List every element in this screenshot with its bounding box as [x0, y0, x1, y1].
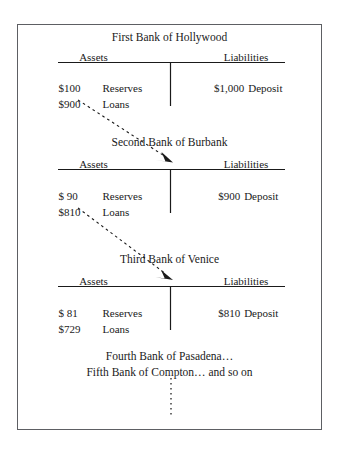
asset-row-loans-second: $810Loans — [42, 193, 129, 232]
assets-header-second: Assets — [17, 158, 170, 170]
liability-label-deposit-first: Deposit — [244, 82, 282, 94]
bank-title-second: Second Bank of Burbank — [17, 136, 322, 149]
liabilities-header-second: Liabilities — [170, 158, 322, 170]
asset-label-loans-second: Loans — [99, 206, 130, 218]
asset-amount-loans-third: $729 — [59, 323, 99, 336]
continuation-line-fifth: Fifth Bank of Compton… and so on — [17, 364, 322, 380]
liability-row-deposit-second: $900Deposit — [170, 177, 310, 216]
liability-amount-deposit-first: $1,000 — [214, 82, 244, 94]
liability-row-deposit-third: $810Deposit — [170, 294, 310, 333]
liabilities-header-first: Liabilities — [170, 51, 322, 63]
asset-label-loans-third: Loans — [99, 323, 130, 335]
liability-label-deposit-third: Deposit — [240, 307, 278, 319]
asset-row-loans-first: $900Loans — [42, 85, 129, 124]
asset-label-loans-first: Loans — [99, 98, 130, 110]
liability-row-deposit-first: $1,000Deposit — [170, 69, 310, 108]
assets-header-third: Assets — [17, 275, 170, 287]
assets-header-first: Assets — [17, 51, 170, 63]
bank-title-third: Third Bank of Venice — [17, 253, 322, 266]
fractional-reserve-banking-figure: First Bank of Hollywood Assets Liabiliti… — [0, 0, 342, 449]
liabilities-header-third: Liabilities — [170, 275, 322, 287]
liability-amount-deposit-third: $810 — [218, 307, 240, 319]
bank-title-first: First Bank of Hollywood — [17, 31, 322, 44]
asset-amount-loans-first: $900 — [59, 98, 99, 111]
continuation-line-fourth: Fourth Bank of Pasadena… — [17, 348, 322, 364]
liability-label-deposit-second: Deposit — [240, 190, 278, 202]
asset-amount-loans-second: $810 — [59, 206, 99, 219]
asset-row-loans-third: $729Loans — [42, 310, 129, 349]
liability-amount-deposit-second: $900 — [218, 190, 240, 202]
